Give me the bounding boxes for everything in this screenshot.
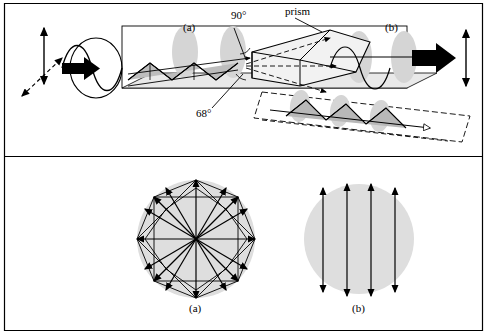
label-b-top: (b)	[385, 22, 398, 33]
input-beam-group	[22, 28, 122, 98]
label-a-bottom: (a)	[189, 303, 201, 314]
label-b-bottom: (b)	[352, 303, 365, 314]
label-a-top: (a)	[183, 22, 195, 33]
optical-diagram-svg	[0, 0, 487, 333]
bottom-panel	[137, 180, 414, 298]
reflected-branch	[254, 89, 470, 142]
polarization-disc-a	[137, 180, 255, 298]
polarization-disc-b	[304, 184, 414, 296]
label-prism: prism	[285, 6, 310, 17]
label-90-degree: 90°	[231, 10, 246, 21]
label-68-degree: 68°	[196, 108, 211, 119]
top-panel	[22, 12, 470, 143]
figure-container: (a) 90° prism (b) 68° (a) (b)	[0, 0, 487, 333]
